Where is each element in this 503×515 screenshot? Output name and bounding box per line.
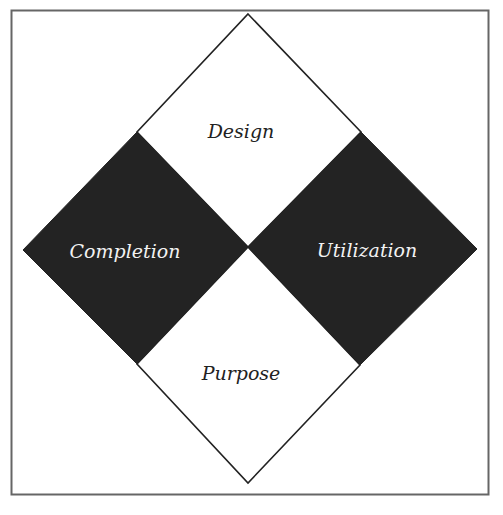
label-completion: Completion bbox=[70, 240, 181, 262]
diamond-diagram: Design Completion Utilization Purpose bbox=[0, 0, 503, 515]
label-design: Design bbox=[207, 120, 275, 142]
label-purpose: Purpose bbox=[201, 362, 281, 384]
label-utilization: Utilization bbox=[317, 239, 418, 261]
